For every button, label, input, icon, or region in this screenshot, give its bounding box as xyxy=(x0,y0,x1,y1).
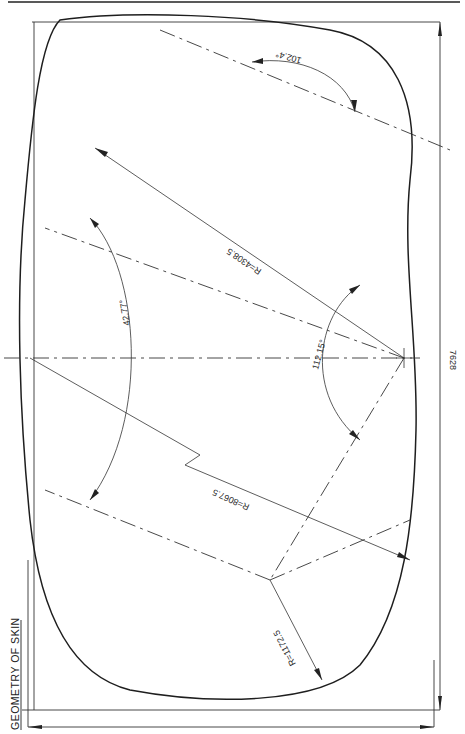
angle-arrow xyxy=(90,489,99,500)
dimension-arrow xyxy=(420,725,434,729)
angle-arrow xyxy=(252,58,263,64)
angle-label-center: 112.15° xyxy=(310,338,328,370)
radius-label-1172: R=1172.5 xyxy=(271,629,297,668)
dimension-arrow xyxy=(28,725,42,729)
radius-line-8067 xyxy=(30,358,410,560)
radius-label-4308: R=4308.5 xyxy=(225,246,263,276)
angle-arc-center xyxy=(322,285,360,440)
radius-arrow xyxy=(397,552,410,560)
radius-arrow xyxy=(314,668,322,680)
angle-arc-left xyxy=(90,218,131,500)
construction-line-small-down xyxy=(270,520,410,580)
drawing-title: GEOMETRY OF SKIN xyxy=(9,617,21,730)
angle-label-top: 102.4° xyxy=(274,49,302,66)
skin-geometry-drawing: R=4308.5 R=8067.5 R=1172.5 102.4° 42.77°… xyxy=(0,0,465,734)
overall-width-label: 7628 xyxy=(448,350,458,370)
center-point-marker xyxy=(396,348,412,368)
dimension-arrow xyxy=(438,22,442,36)
outer-dimension-frame xyxy=(22,22,442,729)
construction-line-lower xyxy=(270,358,404,580)
angle-arc-top xyxy=(252,61,355,112)
angle-label-left: 42.77° xyxy=(118,299,132,327)
construction-line-top xyxy=(160,30,450,150)
dimension-arrow xyxy=(438,696,442,710)
skin-outline xyxy=(20,15,417,699)
radius-line-4308 xyxy=(95,148,404,358)
radius-label-8067: R=8067.5 xyxy=(211,487,251,512)
